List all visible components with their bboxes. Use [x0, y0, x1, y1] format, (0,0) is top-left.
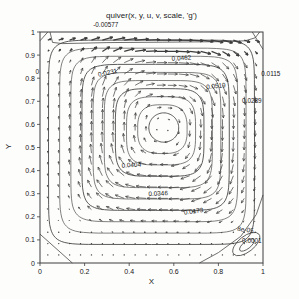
y-tick-label: 0.6	[25, 121, 35, 128]
y-tick-label: 0.8	[25, 75, 35, 82]
quiver-field	[47, 37, 259, 256]
y-tick-label: 0.7	[25, 98, 35, 105]
contour-label: 0.0115	[261, 70, 281, 77]
contour-label: 0.0404	[121, 161, 141, 169]
x-axis-label: X	[40, 277, 263, 286]
figure: quiver(x, y, u, v, scale, 'g') 00.20.40.…	[0, 0, 299, 299]
contour-label: -0.00577	[93, 21, 119, 28]
y-tick-label: 0.5	[25, 144, 35, 151]
y-tick-label: 0.3	[25, 190, 35, 197]
x-tick-label: 0.6	[169, 268, 179, 275]
contour-label: 0.0289	[242, 97, 262, 104]
y-tick-label: 1	[31, 29, 35, 36]
y-tick-label: 0.1	[25, 236, 35, 243]
contour-label: 0.0001	[242, 237, 262, 244]
x-tick-label: 0.2	[80, 268, 90, 275]
x-tick-label: 0.8	[214, 268, 224, 275]
y-tick-label: 0	[31, 260, 35, 267]
contour-label: 0.0173	[183, 206, 204, 216]
contour-label: 0.0519	[206, 81, 227, 90]
plot-canvas: 00.20.40.60.8100.10.20.30.40.50.60.70.80…	[0, 0, 299, 299]
contour-label: 0.0346	[148, 189, 168, 197]
y-tick-label: 0.2	[25, 213, 35, 220]
y-axis-label: Y	[4, 144, 13, 149]
x-tick-label: 0.4	[124, 268, 134, 275]
contour-label: 8e-05	[237, 225, 255, 234]
contour-label: 0.0462	[171, 53, 191, 61]
x-tick-label: 0	[38, 268, 42, 275]
x-tick-label: 1	[261, 268, 265, 275]
contour-lines	[40, 32, 264, 263]
y-tick-label: 0.9	[25, 52, 35, 59]
contour-label: 0	[36, 68, 40, 75]
contour-label: 0.0231	[97, 67, 118, 78]
y-tick-label: 0.4	[25, 167, 35, 174]
